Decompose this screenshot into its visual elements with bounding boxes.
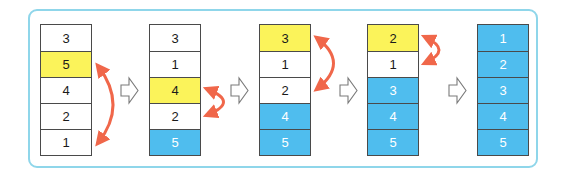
cell: 5 [260,129,310,155]
stack-step-5: 1 2 3 4 5 [477,24,529,156]
cell: 4 [260,103,310,129]
cell: 5 [368,129,418,155]
cell: 2 [478,51,528,77]
cell: 3 [478,77,528,103]
cell: 4 [368,103,418,129]
stack-step-1: 3 5 4 2 1 [40,24,92,156]
cell: 1 [150,51,200,77]
cell: 2 [260,77,310,103]
stack-step-3: 3 1 2 4 5 [259,24,311,156]
cell: 1 [368,51,418,77]
cell: 2 [368,25,418,51]
cell: 5 [478,129,528,155]
stack-step-2: 3 1 4 2 5 [149,24,201,156]
cell: 2 [41,103,91,129]
cell: 2 [150,103,200,129]
cell: 1 [478,25,528,51]
cell: 1 [260,51,310,77]
cell: 4 [150,77,200,103]
cell: 5 [41,51,91,77]
cell: 5 [150,129,200,155]
cell: 3 [150,25,200,51]
cell: 3 [368,77,418,103]
cell: 3 [260,25,310,51]
cell: 4 [478,103,528,129]
stack-step-4: 2 1 3 4 5 [367,24,419,156]
cell: 1 [41,129,91,155]
cell: 3 [41,25,91,51]
cell: 4 [41,77,91,103]
